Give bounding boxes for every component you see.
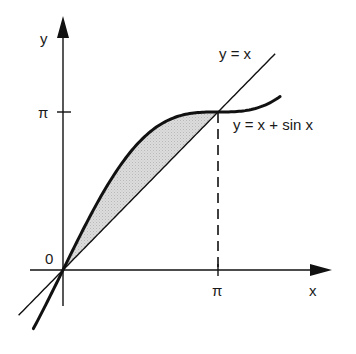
- y-tick-label-pi: π: [38, 104, 48, 121]
- x-tick-label-pi: π: [212, 282, 222, 299]
- y-axis-label: y: [40, 30, 48, 47]
- y-axis-arrow-icon: [57, 16, 69, 38]
- curve-label: y = x + sin x: [233, 116, 314, 133]
- line-y-equals-x: [19, 54, 276, 316]
- x-axis-arrow-icon: [310, 264, 332, 276]
- x-axis-label: x: [309, 282, 317, 299]
- origin-label: 0: [45, 250, 53, 267]
- line-label: y = x: [219, 45, 252, 62]
- function-diagram: y x 0 π π y = x y = x + sin x: [0, 0, 356, 354]
